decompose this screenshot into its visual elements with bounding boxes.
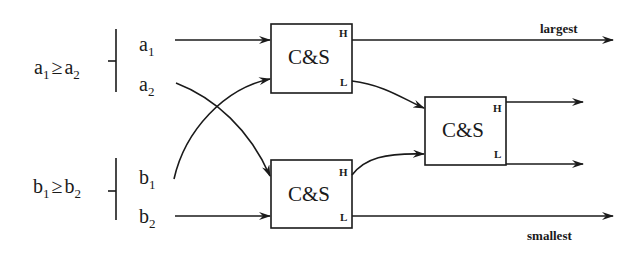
input-b1: b1 [139,167,156,191]
input-b2: b2 [139,206,156,230]
cs-box-3-label: C&S [442,118,484,143]
output-largest-label: largest [540,21,578,37]
cs-box-1-low: L [340,76,347,88]
input-a1: a1 [139,34,154,58]
edge-box2-high [352,154,424,175]
cs-box-2-high: H [339,166,348,178]
cs-box-2-low: L [340,211,347,223]
cs-box-1-high: H [339,27,348,39]
edge-a2 [176,83,270,176]
cs-box-2-label: C&S [288,182,330,207]
condition-a: a1≥a2 [34,57,80,81]
output-smallest-label: smallest [527,228,572,244]
input-a2: a2 [139,74,154,98]
cs-box-3-low: L [494,148,501,160]
edge-b1 [174,79,270,179]
diagram-canvas [0,0,620,255]
condition-b: b1≥b2 [33,176,81,200]
cs-box-3-high: H [493,102,502,114]
edge-box1-low [352,81,424,108]
cs-box-1-label: C&S [288,45,330,70]
